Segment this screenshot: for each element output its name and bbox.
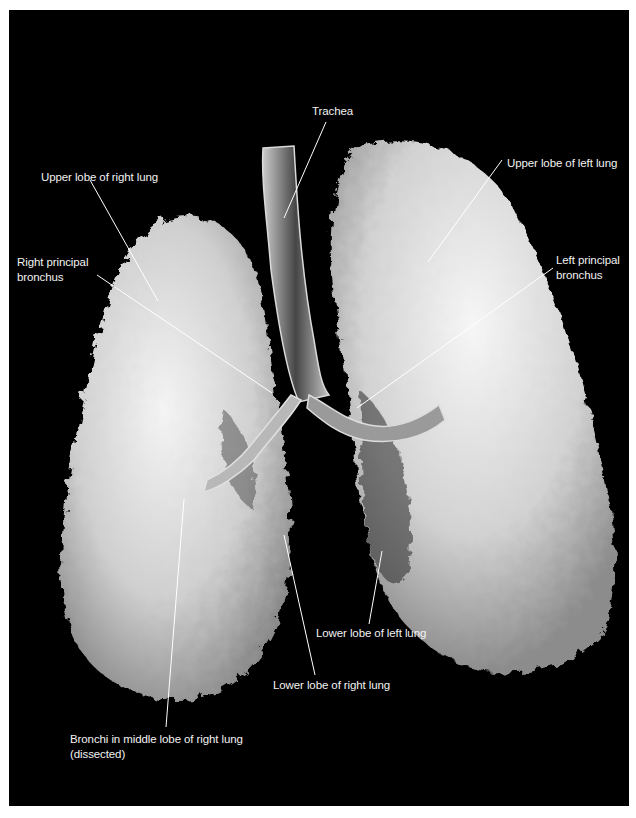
label-trachea: Trachea	[312, 104, 353, 119]
label-lower-lobe-left-lung: Lower lobe of left lung	[316, 626, 426, 641]
trachea-cast	[263, 146, 329, 402]
label-upper-lobe-right-lung: Upper lobe of right lung	[41, 170, 158, 185]
label-lower-lobe-right-lung: Lower lobe of right lung	[273, 678, 390, 693]
label-upper-lobe-left-lung: Upper lobe of left lung	[507, 156, 617, 171]
right-lung	[61, 217, 291, 700]
figure-panel: Trachea Upper lobe of right lung Upper l…	[9, 10, 629, 806]
label-middle-lobe-bronchi: Bronchi in middle lobe of right lung (di…	[70, 732, 243, 762]
label-left-principal-bronchus: Left principal bronchus	[556, 253, 620, 283]
label-right-principal-bronchus: Right principal bronchus	[17, 255, 88, 285]
